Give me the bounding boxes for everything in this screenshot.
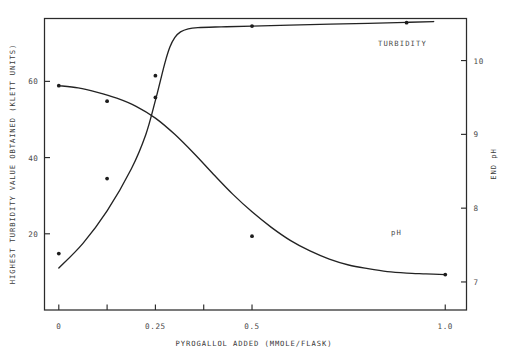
x-tick-label: 1.0 [437, 322, 453, 331]
data-point [405, 21, 409, 25]
chart-figure: 00.250.51.0 204060 78910 TURBIDITY pH PY… [0, 0, 508, 355]
y-right-tick-label: 10 [474, 57, 484, 66]
data-point [250, 24, 254, 28]
x-tick-label: 0.5 [244, 322, 260, 331]
y-axis-right-label: END pH [489, 148, 498, 179]
y-left-tick-label: 40 [28, 154, 38, 163]
x-tick-label: 0.25 [145, 322, 166, 331]
chart-svg: 00.250.51.0 204060 78910 TURBIDITY pH PY… [0, 0, 508, 355]
data-point [154, 74, 158, 78]
ph-series-label: pH [391, 228, 402, 237]
data-point [105, 177, 109, 181]
data-point [154, 96, 158, 100]
y-left-tick-label: 60 [28, 77, 38, 86]
data-point [57, 84, 61, 88]
chart-background [0, 0, 508, 355]
y-right-tick-label: 8 [474, 204, 479, 213]
x-axis-label: PYROGALLOL ADDED (MMOLE/FLASK) [176, 339, 333, 348]
data-point [250, 234, 254, 238]
data-point [105, 99, 109, 103]
turbidity-series-label: TURBIDITY [378, 39, 427, 48]
y-right-tick-label: 7 [474, 278, 479, 287]
y-right-tick-label: 9 [474, 130, 479, 139]
y-left-tick-label: 20 [28, 230, 38, 239]
data-point [443, 273, 447, 277]
y-axis-left-label: HIGHEST TURBIDITY VALUE OBTAINED (KLETT … [8, 44, 17, 284]
data-point [57, 252, 61, 256]
x-tick-label: 0 [56, 322, 61, 331]
